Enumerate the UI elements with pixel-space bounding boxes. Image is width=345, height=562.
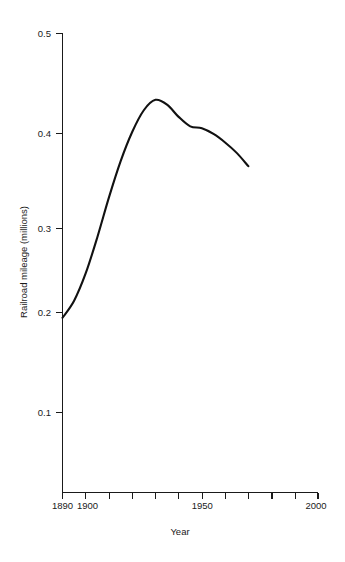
railroad-mileage-line xyxy=(63,100,249,318)
y-tick-label-3: 0.2 xyxy=(38,307,51,318)
chart-figure: 0.5 0.4 0.3 0.2 0.1 1890 1900 1950 2 xyxy=(0,0,345,562)
x-axis-title: Year xyxy=(170,526,189,537)
line-chart-canvas: 0.5 0.4 0.3 0.2 0.1 1890 1900 1950 2 xyxy=(0,0,345,562)
x-axis-ticks xyxy=(63,493,319,500)
x-axis-tick-labels: 1890 1900 1950 2000 xyxy=(52,500,327,511)
y-axis-tick-labels: 0.5 0.4 0.3 0.2 0.1 xyxy=(38,28,51,418)
y-tick-label-0: 0.5 xyxy=(38,28,51,39)
y-tick-label-4: 0.1 xyxy=(38,407,51,418)
x-tick-label-2: 1950 xyxy=(192,500,213,511)
x-tick-label-0: 1890 xyxy=(52,500,73,511)
y-axis-ticks xyxy=(56,34,63,413)
y-tick-label-1: 0.4 xyxy=(38,128,51,139)
axis-lines xyxy=(63,33,319,493)
y-axis-title: Railroad mileage (millions) xyxy=(18,206,29,318)
y-tick-label-2: 0.3 xyxy=(38,223,51,234)
x-tick-label-1: 1900 xyxy=(77,500,98,511)
x-tick-label-3: 2000 xyxy=(305,500,326,511)
